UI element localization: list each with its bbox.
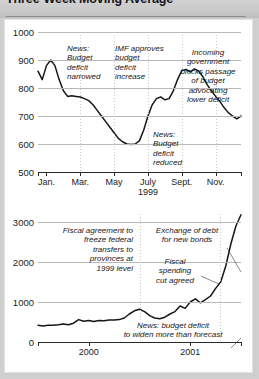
x-axis-tick [114,172,115,176]
x-axis-tick [216,172,217,176]
gridline [38,116,241,117]
x-axis-tick-label: Sept. [171,177,192,187]
x-axis-tick-label: July [140,177,156,187]
x-axis-line [38,342,241,343]
x-axis-tick [89,342,90,346]
x-axis-tick-label: Jan. [38,177,55,187]
gridline [38,144,241,145]
y-axis-tick-label: 600 [18,139,34,150]
page-background: Three-Week Moving Average 50060070080090… [0,0,259,379]
header-divider [6,16,246,17]
x-axis-tick-label: Mar. [72,177,90,187]
y-axis-tick-label: 900 [18,55,34,66]
y-axis-tick-label: 500 [18,167,34,178]
chart-top: 5006007008009001000 News: Budget deficit… [5,20,252,198]
annotation-incoming-government-blocks-passage: Incoming government blocks passage of bu… [171,48,245,104]
annotation-imf-approves-budget-deficit-increase: IMF approves budget deficit increase [115,44,173,82]
x-axis-tick-label: May [106,177,123,187]
y-axis-tick-label: 1000 [13,27,34,38]
x-axis-tick [80,172,81,176]
axis-end-cap [38,172,39,176]
x-axis-year-label: 1999 [138,187,158,197]
axis-end-cap [241,342,242,346]
annotation-news-budget-deficit-narrowed: News: Budget deficit narrowed [67,44,113,82]
y-axis-tick-label: 800 [18,83,34,94]
x-axis-tick [182,172,183,176]
page-title: Three-Week Moving Average [6,0,173,6]
chart-bottom: 0100020003000 Fiscal agreement to freeze… [5,198,252,372]
x-axis-tick-label: 2001 [180,347,200,357]
axis-end-cap [38,342,39,346]
x-axis-tick-label: 2000 [79,347,99,357]
gridline [38,32,241,33]
axis-end-cap [241,172,242,176]
annotation-leader-lines [5,198,252,372]
x-axis-tick [190,342,191,346]
x-axis-line [38,172,241,173]
annotation-news-budget-deficit-reduced: News: Budget deficit reduced [153,130,195,168]
panel-header: Three-Week Moving Average [0,0,259,18]
y-axis-tick-label: 700 [18,111,34,122]
x-axis-tick [46,172,47,176]
chart-card: 5006007008009001000 News: Budget deficit… [5,20,252,372]
x-axis-tick [148,172,149,176]
x-axis-tick-label: Nov. [207,177,225,187]
